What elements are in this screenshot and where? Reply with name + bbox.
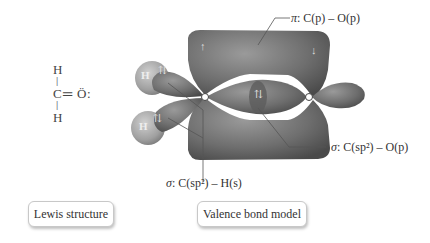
lewis-double-bond: ═ <box>63 86 72 102</box>
hydrogen-label-bottom: H <box>139 120 148 132</box>
pi-label-text: : C(p) – O(p) <box>297 11 360 25</box>
pi-electron-up: ↑ <box>200 40 206 52</box>
electron-pair-ch-top: ⇅ <box>158 64 167 77</box>
pi-bond-label: π: C(p) – O(p) <box>291 11 360 26</box>
oxygen-nucleus <box>306 94 313 101</box>
lewis-oxygen: Ö <box>77 86 86 102</box>
electron-pair-ch-bottom: ⇅ <box>153 112 162 125</box>
sigma-co-label: σ: C(sp²) – O(p) <box>331 140 408 155</box>
lewis-structure: H | C ═ Ö : | H <box>50 62 110 122</box>
sigma-ch-label: σ: C(sp²) – H(s) <box>166 176 242 191</box>
lewis-bond-top: | <box>56 74 58 86</box>
valence-bond-caption: Valence bond model <box>197 201 307 227</box>
lewis-structure-caption: Lewis structure <box>28 201 114 227</box>
electron-pair-co-sigma: ⇅ <box>254 88 263 101</box>
lewis-bond-bottom: | <box>56 98 58 110</box>
hydrogen-label-top: H <box>141 69 150 81</box>
sigma-co-label-text: : C(sp²) – O(p) <box>337 140 408 154</box>
lewis-lone-pair: : <box>87 86 91 102</box>
carbon-nucleus <box>202 94 209 101</box>
pi-electron-down: ↓ <box>311 44 317 56</box>
sigma-ch-label-text: : C(sp²) – H(s) <box>172 176 242 190</box>
lewis-hydrogen-bottom: H <box>53 110 62 126</box>
